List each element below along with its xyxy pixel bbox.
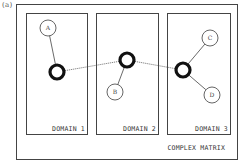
node-c: C	[202, 30, 218, 46]
node-a: A	[40, 20, 56, 36]
node-label: A	[45, 24, 51, 31]
hub-3-ring	[176, 63, 190, 77]
node-d: D	[204, 87, 220, 103]
diagram-canvas: (a) COMPLEX MATRIX DOMAIN 1 DOMAIN 2 DOM…	[0, 0, 247, 166]
hub-1-ring	[50, 65, 64, 79]
node-b: B	[107, 84, 123, 100]
node-label: C	[208, 34, 213, 41]
dotted-link-1	[57, 60, 127, 72]
hub-2-ring	[120, 53, 134, 67]
network-graph: ABCD	[0, 0, 247, 166]
node-label: B	[113, 88, 118, 95]
hubs-layer	[50, 53, 190, 79]
node-label: D	[210, 91, 215, 98]
